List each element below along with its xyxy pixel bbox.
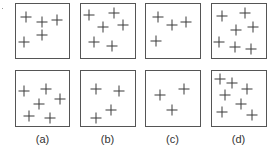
plus-marker-icon xyxy=(179,84,190,95)
plus-marker-icon xyxy=(151,36,162,47)
plus-marker-icon xyxy=(37,17,48,28)
plus-marker-icon xyxy=(236,99,247,110)
label-c: (c) xyxy=(145,133,200,145)
plus-marker-icon xyxy=(91,84,102,95)
plus-marker-icon xyxy=(246,44,257,55)
plus-marker-icon xyxy=(98,22,109,33)
plus-marker-icon xyxy=(247,110,258,121)
plus-marker-icon xyxy=(109,8,120,19)
plus-marker-icon xyxy=(155,90,166,101)
plus-marker-icon xyxy=(181,17,192,28)
plus-marker-icon xyxy=(217,11,228,22)
plus-marker-icon xyxy=(248,22,259,33)
label-b: (b) xyxy=(80,133,135,145)
plus-marker-icon xyxy=(84,10,95,21)
plus-marker-icon xyxy=(19,86,30,97)
plus-marker-icon xyxy=(107,41,118,52)
plus-marker-icon xyxy=(118,20,129,31)
plus-marker-icon xyxy=(167,20,178,31)
plus-marker-icon xyxy=(231,25,242,36)
plus-marker-icon xyxy=(227,78,238,89)
stray-mark xyxy=(2,8,3,9)
plus-marker-icon xyxy=(19,37,30,48)
plus-marker-icon xyxy=(106,105,117,116)
plus-marker-icon xyxy=(240,8,251,19)
plus-marker-icon xyxy=(52,15,63,26)
plus-marker-icon xyxy=(217,107,228,118)
plus-marker-icon xyxy=(45,113,56,124)
plus-marker-icon xyxy=(34,99,45,110)
panel-b-bottom xyxy=(80,70,136,127)
plus-marker-icon xyxy=(55,94,66,105)
label-d: (d) xyxy=(211,133,266,145)
plus-marker-icon xyxy=(153,12,164,23)
plus-marker-icon xyxy=(214,37,225,48)
plus-marker-icon xyxy=(167,105,178,116)
plus-marker-icon xyxy=(89,37,100,48)
plus-marker-icon xyxy=(91,113,102,124)
plus-marker-icon xyxy=(114,86,125,97)
plus-marker-icon xyxy=(220,90,231,101)
plus-marker-icon xyxy=(215,74,226,85)
panel-c-bottom xyxy=(145,70,201,127)
plus-marker-icon xyxy=(230,42,241,53)
plus-marker-icon xyxy=(41,84,52,95)
label-a: (a) xyxy=(15,133,70,145)
plus-marker-icon xyxy=(21,12,32,23)
plus-marker-icon xyxy=(24,111,35,122)
plus-marker-icon xyxy=(37,30,48,41)
plus-marker-icon xyxy=(242,84,253,95)
